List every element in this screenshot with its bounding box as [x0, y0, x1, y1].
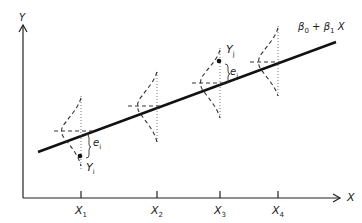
residual-label-i: ei [93, 138, 101, 148]
observation-label-j: Yj [226, 44, 235, 55]
tick-label-x1: X1 [75, 205, 87, 216]
tick-label-x3: X3 [214, 205, 226, 216]
residual-label-j: ej [230, 67, 238, 77]
tick-label-x2: X2 [151, 205, 163, 216]
distribution-x4 [250, 26, 280, 96]
residual-brace-i [86, 134, 91, 158]
y-axis-label: Y [19, 13, 25, 23]
x-ticks [81, 191, 278, 198]
tick-label-x4: X4 [272, 205, 284, 216]
observation-point-i [78, 154, 83, 159]
regression-equation: β0 + β1 X [298, 22, 345, 32]
regression-diagram: Y X β0 + β1 X X1 X2 X3 X4 ei Yi ej Yj [0, 0, 362, 223]
x-axis [23, 194, 340, 202]
observation-point-j [217, 59, 222, 64]
observation-label-i: Yi [86, 162, 95, 173]
y-axis [19, 25, 27, 198]
regression-line [38, 42, 336, 152]
x-axis-label: X [347, 192, 355, 203]
